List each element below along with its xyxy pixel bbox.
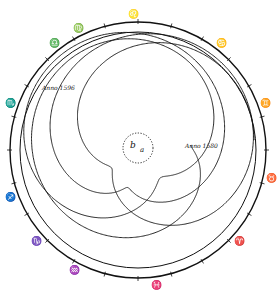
zodiac-sign-aries: ♈	[234, 236, 245, 246]
inner-rim	[20, 32, 256, 268]
zodiac-sign-gemini: ♊	[260, 98, 271, 108]
zodiac-sign-leo: ♌	[128, 9, 139, 19]
zodiac-sign-scorpio: ♏	[5, 98, 16, 108]
zodiac-sign-capricorn: ♑	[31, 236, 42, 246]
zodiac-sign-pisces: ♓	[151, 280, 162, 290]
center-label-a: a	[140, 146, 144, 154]
earth-orbit-dotted	[123, 133, 153, 163]
zodiac-sign-sagittarius: ♐	[5, 192, 16, 202]
zodiac-sign-libra: ♎	[49, 38, 60, 48]
zodiac-sign-aquarius: ♒	[69, 265, 80, 275]
zodiac-sign-cancer: ♋	[216, 38, 227, 48]
annotation-anno-1596: Anno 1596	[42, 84, 75, 91]
zodiac-sign-virgo: ♍	[73, 23, 84, 33]
center-label-b: b	[130, 140, 136, 150]
zodiac-ticks	[7, 19, 269, 281]
annotation-anno-1580: Anno 1580	[185, 142, 218, 149]
zodiac-sign-taurus: ♉	[266, 173, 277, 183]
